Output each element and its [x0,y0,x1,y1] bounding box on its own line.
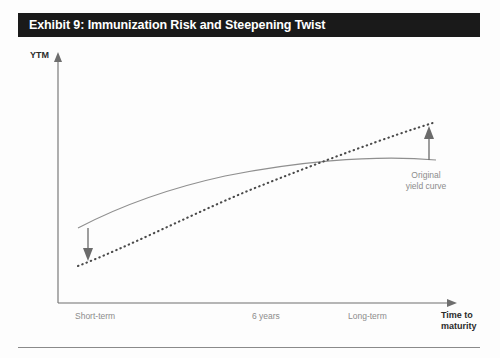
original-yield-curve-label: Original yield curve [388,170,464,192]
y-axis-arrowhead-icon [54,52,62,62]
x-axis-title: Time to maturity [441,310,499,332]
x-axis-title-line1: Time to [441,310,473,320]
x-axis-arrowhead-icon [447,299,457,307]
x-axis-title-line2: maturity [441,321,477,331]
twisted-yield-curve-line [78,122,436,266]
y-axis-title: YTM [30,50,49,60]
footer-divider [18,347,480,348]
x-tick-label-six-years: 6 years [252,311,280,321]
exhibit-figure: Exhibit 9: Immunization Risk and Steepen… [0,0,500,358]
x-tick-label-long-term: Long-term [348,311,387,321]
original-yield-curve-line [78,158,436,228]
long-end-yield-increase-arrow-icon [424,126,434,139]
original-yield-curve-label-line2: yield curve [406,181,447,191]
original-yield-curve-label-line1: Original [411,170,440,180]
short-end-yield-decrease-arrow-icon [83,248,93,261]
x-tick-label-short-term: Short-term [75,311,115,321]
